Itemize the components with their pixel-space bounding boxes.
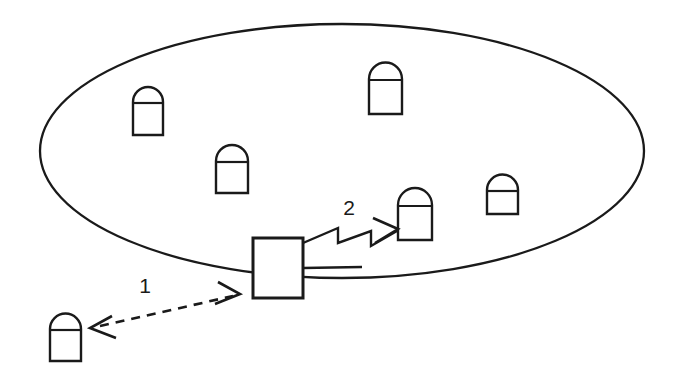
link-1-label: 1 (139, 274, 151, 297)
network-diagram: 1 2 (0, 0, 674, 388)
device-outline-1 (133, 87, 163, 135)
device-outline-3 (369, 63, 402, 114)
diagram-canvas: 1 2 (0, 0, 674, 388)
device-icon-3 (369, 63, 402, 114)
device-icon-4 (487, 175, 518, 215)
link-2-zigzag-arrow (303, 218, 398, 246)
link-1-arrowhead-left (90, 316, 116, 338)
wired-link-line (303, 267, 362, 268)
link-2-label: 2 (343, 196, 355, 219)
device-outline-6 (50, 313, 81, 361)
device-outline-5 (398, 188, 432, 240)
device-icon-6 (50, 313, 81, 361)
link-1-arrowhead-right (215, 282, 240, 304)
link-2-arrowhead (373, 218, 398, 243)
device-icon-1 (133, 87, 163, 135)
device-outline-4 (487, 175, 518, 215)
link-1-dashed-double-arrow (90, 282, 240, 338)
link-1-line (100, 296, 233, 326)
coverage-area-ellipse (40, 24, 644, 278)
device-icon-2 (216, 145, 248, 193)
gateway-rectangle (253, 238, 303, 298)
device-icon-5 (398, 188, 432, 240)
device-outline-2 (216, 145, 248, 193)
